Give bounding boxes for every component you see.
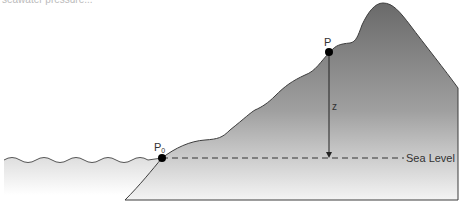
- label-p0: P0: [154, 141, 165, 154]
- sea-level-diagram: P0 P z Sea Level: [0, 0, 464, 209]
- point-p: [325, 48, 333, 56]
- mountain: [125, 3, 458, 200]
- point-p0: [158, 154, 166, 162]
- label-sea-level: Sea Level: [406, 152, 455, 164]
- label-p: P: [324, 36, 331, 48]
- label-z: z: [332, 101, 337, 112]
